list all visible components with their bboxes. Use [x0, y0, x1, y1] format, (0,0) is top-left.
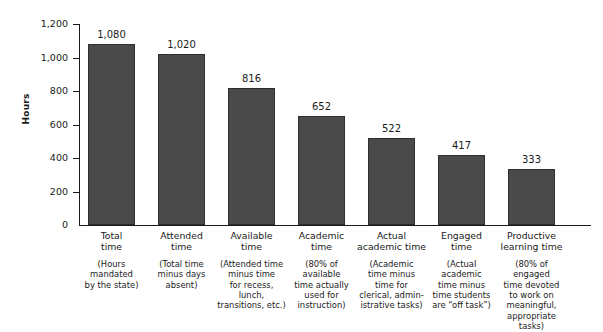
- category-description: (Actual academic time minus time student…: [427, 259, 496, 311]
- bar-value-label: 1,080: [75, 29, 148, 40]
- category-description: (80% of available time actually used for…: [287, 259, 356, 311]
- y-tick-label: 400: [28, 153, 68, 163]
- y-tick-label: 0: [28, 220, 68, 230]
- category-title: Available time: [217, 230, 286, 253]
- y-axis-line: [79, 24, 80, 226]
- category-title: Academic time: [287, 230, 356, 253]
- bar: [438, 155, 485, 225]
- bar-value-label: 333: [495, 154, 568, 165]
- tick-mark: [73, 125, 79, 126]
- bar-value-label: 816: [215, 73, 288, 84]
- category-label: Attended time(Total time minus days abse…: [147, 230, 216, 290]
- y-tick-label: 200: [28, 187, 68, 197]
- bar-value-label: 652: [285, 101, 358, 112]
- tick-mark: [73, 192, 79, 193]
- category-label: Academic time(80% of available time actu…: [287, 230, 356, 311]
- category-label: Total time(Hours mandated by the state): [77, 230, 146, 290]
- y-tick-label: 600: [28, 120, 68, 130]
- y-tick-label: 1,200: [28, 19, 68, 29]
- category-title: Attended time: [147, 230, 216, 253]
- bar: [158, 54, 205, 225]
- bar: [228, 88, 275, 225]
- category-title: Actual academic time: [357, 230, 426, 253]
- bar: [298, 116, 345, 225]
- bar: [508, 169, 555, 225]
- category-description: (Academic time minus time for clerical, …: [357, 259, 426, 311]
- category-description: (80% of engaged time devoted to work on …: [497, 259, 566, 332]
- y-tick-label: 1,000: [28, 53, 68, 63]
- tick-mark: [73, 91, 79, 92]
- category-title: Productive learning time: [497, 230, 566, 253]
- category-title: Total time: [77, 230, 146, 253]
- category-label: Engaged time(Actual academic time minus …: [427, 230, 496, 311]
- y-tick-label: 800: [28, 86, 68, 96]
- tick-mark: [73, 158, 79, 159]
- category-title: Engaged time: [427, 230, 496, 253]
- bar-value-label: 417: [425, 140, 498, 151]
- bar: [368, 138, 415, 225]
- category-label: Available time(Attended time minus time …: [217, 230, 286, 311]
- category-label: Productive learning time(80% of engaged …: [497, 230, 566, 332]
- tick-mark: [73, 24, 79, 25]
- category-description: (Attended time minus time for recess, lu…: [217, 259, 286, 311]
- category-description: (Total time minus days absent): [147, 259, 216, 290]
- category-label: Actual academic time(Academic time minus…: [357, 230, 426, 311]
- bar: [88, 44, 135, 225]
- bar-value-label: 522: [355, 123, 428, 134]
- bar-value-label: 1,020: [145, 39, 218, 50]
- category-description: (Hours mandated by the state): [77, 259, 146, 290]
- tick-mark: [73, 58, 79, 59]
